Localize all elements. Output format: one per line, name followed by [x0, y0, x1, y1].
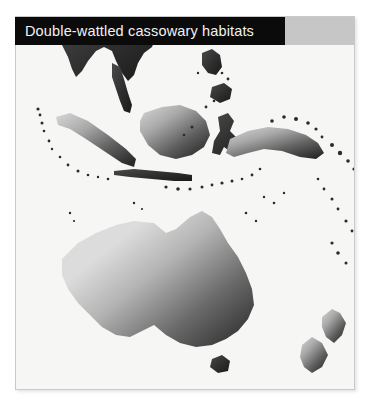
island-dot [273, 202, 276, 205]
island-dot [87, 174, 90, 177]
map-canvas [16, 17, 354, 389]
island-dot [211, 184, 214, 187]
island-dot [306, 121, 310, 125]
island-dot [39, 114, 42, 117]
island-dot [213, 100, 216, 103]
island-dot [251, 174, 254, 177]
island-dot [259, 168, 262, 171]
island-dot [245, 212, 248, 215]
island-dot [97, 176, 99, 178]
island-dot [201, 186, 204, 189]
island-dot [73, 220, 75, 222]
island-dot [141, 208, 143, 210]
island-dot [69, 212, 71, 214]
island-dot [255, 220, 257, 222]
island-dot [231, 180, 234, 183]
map-figure: Double-wattled cassowary habitats [0, 0, 371, 406]
island-dot [345, 262, 348, 265]
island-dot [59, 156, 62, 159]
island-dot [197, 72, 199, 74]
map-panel [15, 16, 355, 390]
island-dot [183, 134, 186, 137]
island-dot [221, 72, 224, 75]
island-dot [133, 202, 135, 204]
island-dot [337, 208, 340, 211]
island-dot [227, 78, 230, 81]
island-dot [176, 187, 180, 191]
island-dot [346, 159, 350, 163]
island-dot [220, 181, 223, 184]
island-dot [351, 230, 354, 233]
legend-block [285, 17, 355, 45]
island-dot [205, 106, 208, 109]
island-dot [215, 62, 217, 64]
island-dot [188, 187, 191, 190]
island-dot [77, 170, 80, 173]
island-dot [283, 192, 285, 194]
island-dot [48, 140, 51, 143]
island-dot [164, 185, 167, 188]
island-dot [294, 117, 298, 121]
island-dot [323, 188, 326, 191]
island-dot [317, 178, 320, 181]
island-dot [270, 119, 274, 123]
island-dot [41, 122, 44, 125]
island-dot [191, 126, 194, 129]
figure-title: Double-wattled cassowary habitats [15, 24, 254, 39]
island-dot [338, 151, 342, 155]
island-dot [321, 136, 324, 139]
island-dot [330, 241, 333, 244]
island-dot [36, 107, 39, 110]
island-dot [336, 251, 340, 255]
island-dot [331, 198, 334, 201]
island-dot [241, 178, 244, 181]
island-dot [51, 148, 53, 150]
island-dot [344, 219, 347, 222]
title-banner: Double-wattled cassowary habitats [15, 17, 285, 45]
island-dot [263, 196, 265, 198]
island-dot [282, 115, 286, 119]
island-dot [107, 178, 110, 181]
island-dot [314, 127, 317, 130]
island-dot [67, 164, 70, 167]
island-dot [43, 130, 46, 133]
island-dot [330, 143, 334, 147]
